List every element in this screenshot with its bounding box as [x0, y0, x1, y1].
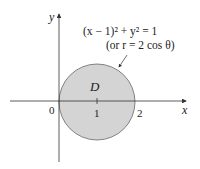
- tick-label-0: 0: [49, 105, 55, 116]
- pointer-arrow: [119, 55, 127, 67]
- tick-label-2: 2: [137, 108, 143, 119]
- equation-polar: (or r = 2 cos θ): [106, 40, 175, 52]
- x-axis-label: x: [182, 104, 187, 116]
- region-label: D: [90, 80, 99, 93]
- polar-region-diagram: y x (x − 1)² + y² = 1 (or r = 2 cos θ) D…: [0, 0, 200, 169]
- tick-label-1: 1: [94, 108, 100, 119]
- y-axis-label: y: [49, 11, 54, 23]
- equation-cartesian: (x − 1)² + y² = 1: [83, 26, 157, 38]
